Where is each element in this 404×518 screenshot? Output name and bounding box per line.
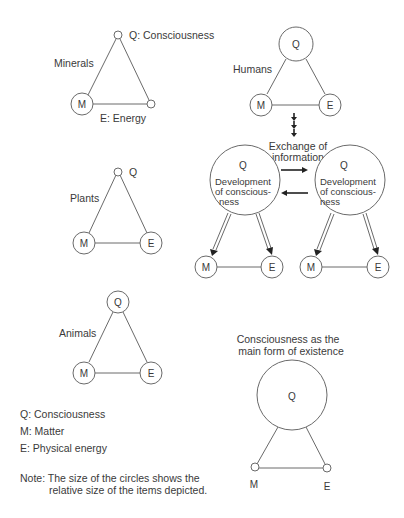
legend: Q: Consciousness M: Matter E: Physical e… <box>20 408 207 496</box>
minerals-e-label: E: Energy <box>100 112 147 124</box>
exchange-right-arrow-icon <box>281 167 308 173</box>
humans-triangle: Q M E Humans <box>233 27 341 116</box>
left-q-label: Q <box>239 160 247 171</box>
minerals-e-node <box>147 100 155 108</box>
main-form-diagram: Consciousness as the main form of existe… <box>237 333 344 492</box>
right-q-label: Q <box>340 160 348 171</box>
minerals-title: Minerals <box>54 57 94 69</box>
animals-e-label: E <box>148 368 155 379</box>
main-form-q-label: Q <box>288 391 296 402</box>
exchange-label-line2: information <box>272 151 324 163</box>
main-form-title-line1: Consciousness as the <box>237 333 340 345</box>
right-m-label: M <box>307 262 315 273</box>
plants-m-label: M <box>80 238 88 249</box>
right-dev-line3: ness <box>320 196 340 207</box>
animals-triangle: Q M E Animals <box>59 291 162 384</box>
humans-title: Humans <box>233 63 272 75</box>
consciousness-diagram: M Q: Consciousness Minerals E: Energy Q … <box>0 0 404 518</box>
minerals-m-label: M <box>78 99 86 110</box>
main-form-m-label: M <box>250 479 258 490</box>
humans-e-label: E <box>327 100 334 111</box>
main-form-e-label: E <box>324 481 331 492</box>
minerals-q-label: Q: Consciousness <box>129 29 214 41</box>
note-line1: Note: The size of the circles shows the <box>20 472 200 484</box>
left-dev-line3: ness <box>219 196 239 207</box>
main-form-e-node <box>323 464 331 472</box>
down-arrows-icon <box>291 113 297 137</box>
plants-triangle: Q M E Plants <box>70 166 162 254</box>
minerals-q-node <box>114 31 122 39</box>
main-form-title-line2: main form of existence <box>238 345 344 357</box>
legend-q: Q: Consciousness <box>20 408 105 420</box>
animals-q-label: Q <box>114 297 122 308</box>
left-development-node: Q Development of conscious- ness M E <box>195 145 283 278</box>
animals-title: Animals <box>59 327 96 339</box>
plants-title: Plants <box>70 192 99 204</box>
main-form-m-node <box>251 463 259 471</box>
plants-q-label: Q <box>129 166 137 178</box>
right-development-node: Q Development of conscious- ness M E <box>300 145 389 278</box>
right-e-label: E <box>375 262 382 273</box>
legend-m: M: Matter <box>20 425 65 437</box>
left-e-label: E <box>269 262 276 273</box>
note-line2: relative size of the items depicted. <box>49 484 207 496</box>
left-m-label: M <box>202 262 210 273</box>
minerals-triangle: M Q: Consciousness Minerals E: Energy <box>54 29 214 124</box>
plants-q-node <box>114 168 122 176</box>
exchange-left-arrow-icon <box>281 190 308 196</box>
animals-m-label: M <box>80 368 88 379</box>
plants-e-label: E <box>148 238 155 249</box>
legend-e: E: Physical energy <box>20 442 108 454</box>
humans-m-label: M <box>257 100 265 111</box>
humans-q-label: Q <box>292 39 300 50</box>
